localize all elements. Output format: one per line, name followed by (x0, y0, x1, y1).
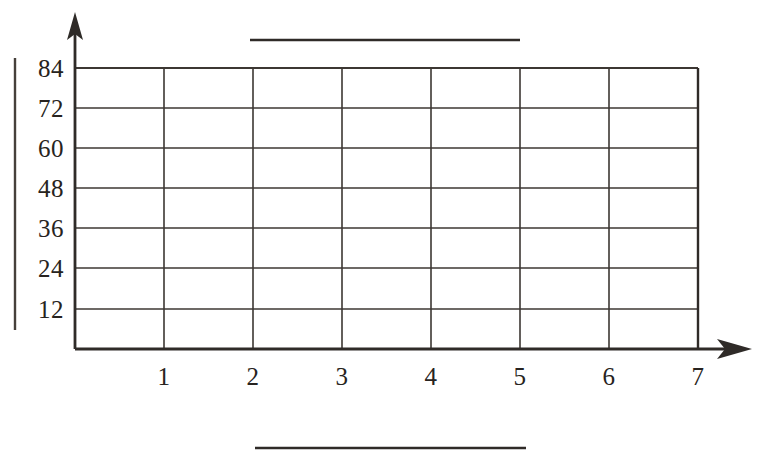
x-tick-label: 1 (158, 363, 171, 390)
x-tick-label: 4 (425, 363, 438, 390)
y-tick-label: 36 (38, 215, 64, 242)
y-tick-label: 24 (38, 255, 64, 282)
x-tick-label: 6 (603, 363, 616, 390)
x-tick-label: 5 (514, 363, 527, 390)
y-tick-label: 12 (38, 296, 64, 323)
y-tick-label: 48 (38, 175, 64, 202)
y-tick-label: 72 (38, 95, 64, 122)
x-axis-tick-labels: 1 2 3 4 5 6 7 (158, 363, 705, 390)
y-tick-label: 60 (38, 135, 64, 162)
x-tick-label: 3 (336, 363, 349, 390)
x-tick-label: 2 (247, 363, 260, 390)
y-tick-label: 84 (38, 55, 64, 82)
plot-area[interactable] (75, 68, 698, 349)
y-axis-tick-labels: 84 72 60 48 36 24 12 (38, 55, 64, 323)
x-tick-label: 7 (692, 363, 705, 390)
worksheet-canvas: 84 72 60 48 36 24 12 1 2 3 4 5 6 7 (0, 0, 765, 473)
